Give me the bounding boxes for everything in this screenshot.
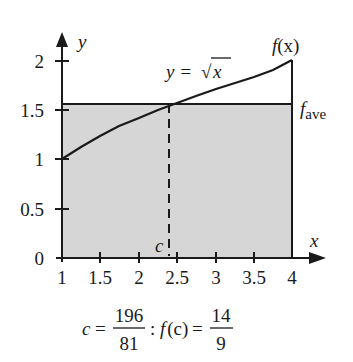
curve-eq-radicand: x [212,61,222,82]
caption-formula: c = 196 81 : f(c) = 14 9 [82,305,233,354]
x-axis-label: x [309,230,319,251]
shaded-area [62,104,292,258]
caption-c-numerator: 196 [115,305,144,326]
x-tick-label: 2.5 [165,267,189,288]
y-tick-label: 0 [35,248,45,269]
fx-label: f(x) [272,35,299,57]
x-tick-label: 2 [134,267,144,288]
c-marker-label: c [155,235,164,256]
fave-sub: ave [305,106,326,122]
x-tick-label: 3 [211,267,221,288]
y-tick-label: 2 [35,51,45,72]
x-tick-label: 1.5 [88,267,112,288]
caption-separator: : [150,318,155,339]
y-axis-arrow-icon [56,32,68,47]
curve-equation-label: y = [164,61,192,82]
x-tick-label: 4 [287,267,297,288]
caption-c: c [82,318,91,339]
x-tick-label: 3.5 [242,267,266,288]
chart: 2 1.5 1 0.5 0 1 1.5 2 2.5 3 3.5 4 y x y … [0,0,353,362]
caption-fc: f(c) [160,318,188,340]
fx-arg: (x) [277,35,299,57]
y-tick-label: 0.5 [20,199,44,220]
caption-fc-numerator: 14 [212,305,232,326]
fave-label: fave [300,98,326,122]
caption-c-denominator: 81 [120,333,139,354]
y-axis-label: y [76,31,87,52]
radical-icon: √ [201,61,212,82]
caption-fc-arg: (c) [167,318,188,340]
curve-eq-lhs: y = [164,61,192,82]
y-tick-label: 1.5 [20,100,44,121]
caption-equals-2: = [192,318,203,339]
x-axis-arrow-icon [309,252,326,264]
x-tick-label: 1 [57,267,67,288]
caption-fc-denominator: 9 [216,333,226,354]
y-tick-label: 1 [35,149,45,170]
caption-equals: = [95,318,106,339]
